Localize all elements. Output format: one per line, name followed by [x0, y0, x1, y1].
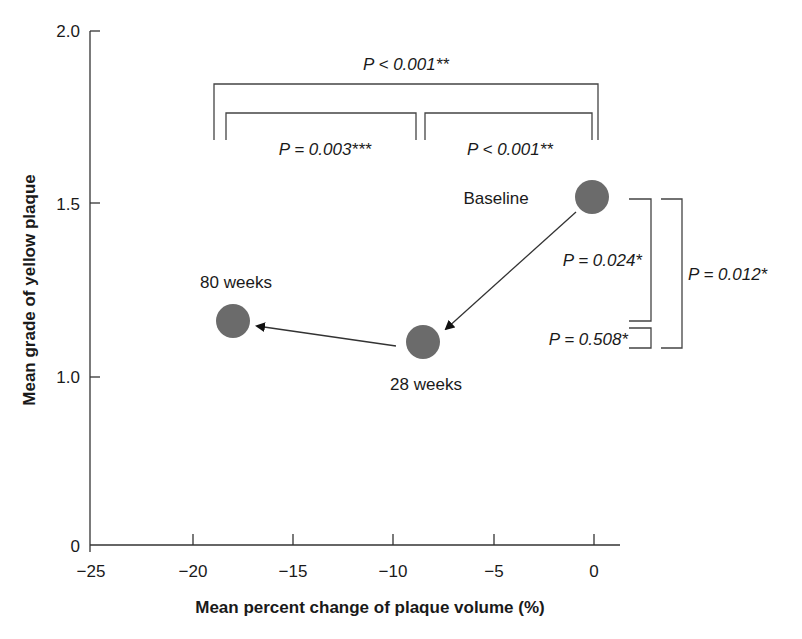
bracket-baseline-80w-y [661, 199, 682, 348]
arrow-baseline-to-28w [446, 212, 576, 329]
arrow-28w-to-80w [257, 326, 396, 346]
data-points: Baseline 28 weeks 80 weeks [200, 180, 609, 394]
y-axis: 2.0 1.5 1.0 0 Mean grade of yellow plaqu… [20, 22, 100, 556]
x-tick-label: −20 [179, 562, 208, 581]
bracket-28w-baseline [425, 113, 592, 140]
y-axis-title: Mean grade of yellow plaque [20, 174, 39, 405]
right-comparison-brackets: P = 0.024* P = 0.508* P = 0.012* [549, 199, 769, 349]
x-tick-label: −15 [279, 562, 308, 581]
scatter-chart: 2.0 1.5 1.0 0 Mean grade of yellow plaqu… [0, 0, 802, 639]
pvalue-baseline-28w-y: P = 0.024* [563, 251, 644, 270]
pvalue-28w-baseline: P < 0.001** [467, 140, 554, 159]
point-28-weeks [406, 325, 440, 359]
x-axis-title: Mean percent change of plaque volume (%) [195, 598, 545, 617]
bracket-80w-28w [226, 113, 416, 140]
bracket-28w-80w-y [629, 328, 651, 348]
trajectory-arrows [257, 212, 576, 346]
y-tick-label: 2.0 [56, 22, 80, 41]
top-comparison-brackets: P < 0.001** P = 0.003*** P < 0.001** [214, 55, 598, 159]
pvalue-80w-28w: P = 0.003*** [279, 140, 373, 159]
pvalue-28w-80w-y: P = 0.508* [549, 330, 630, 349]
pvalue-80w-baseline: P < 0.001** [363, 55, 450, 74]
point-80-weeks [216, 304, 250, 338]
x-tick-label: −5 [484, 562, 503, 581]
x-tick-label: 0 [589, 562, 598, 581]
point-label-baseline: Baseline [463, 189, 528, 208]
x-tick-label: −10 [379, 562, 408, 581]
y-tick-label: 1.5 [56, 195, 80, 214]
point-label-80-weeks: 80 weeks [200, 273, 272, 292]
point-label-28-weeks: 28 weeks [390, 375, 462, 394]
x-axis: −25 −20 −15 −10 −5 0 Mean percent change… [77, 534, 620, 617]
pvalue-baseline-80w-y: P = 0.012* [688, 265, 769, 284]
bracket-80w-baseline [214, 84, 598, 140]
point-baseline [575, 180, 609, 214]
x-tick-label: −25 [77, 562, 106, 581]
y-tick-label: 1.0 [56, 368, 80, 387]
y-tick-label: 0 [71, 537, 80, 556]
